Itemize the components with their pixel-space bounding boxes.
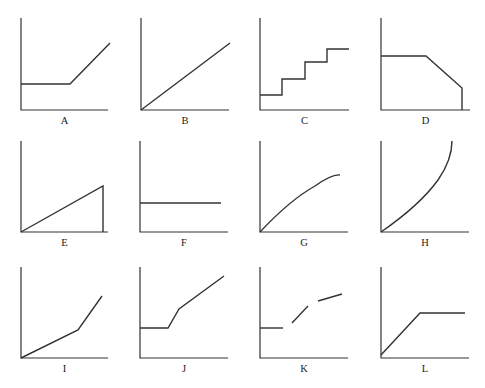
graph-axes xyxy=(260,267,348,358)
graph-label: H xyxy=(421,237,429,248)
graph-curve xyxy=(381,56,462,110)
graph-curve xyxy=(260,49,349,95)
graph-label: I xyxy=(63,363,67,374)
graph-h: H xyxy=(381,141,469,248)
graph-curve xyxy=(21,43,110,84)
graph-axes xyxy=(381,141,469,232)
graph-axes xyxy=(21,18,108,110)
graph-curve xyxy=(141,43,230,110)
graph-k: K xyxy=(260,267,348,374)
graph-b: B xyxy=(141,18,230,126)
graph-c: C xyxy=(260,18,349,126)
graph-axes xyxy=(21,141,108,232)
graph-label: L xyxy=(422,363,428,374)
graph-label: B xyxy=(181,115,188,126)
graph-axes xyxy=(140,267,228,358)
graph-curve xyxy=(381,313,465,355)
graph-curve xyxy=(381,141,452,232)
graph-curve xyxy=(260,175,340,232)
graph-label: K xyxy=(300,363,308,374)
graph-curve xyxy=(140,276,224,328)
graph-label: F xyxy=(181,237,187,248)
graph-label: A xyxy=(61,115,69,126)
graph-f: F xyxy=(140,141,228,248)
graph-label: C xyxy=(301,115,308,126)
graph-e: E xyxy=(21,141,108,248)
graph-axes xyxy=(140,141,228,232)
graph-g: G xyxy=(260,141,348,248)
graph-i: I xyxy=(21,267,108,374)
graph-axes xyxy=(381,18,470,110)
graph-grid: ABCDEFGHIJKL xyxy=(0,0,485,388)
graph-j: J xyxy=(140,267,228,374)
graph-l: L xyxy=(381,267,469,374)
graph-axes xyxy=(21,267,108,358)
graph-label: E xyxy=(61,237,67,248)
graph-label: D xyxy=(422,115,430,126)
graph-curve xyxy=(292,306,308,323)
graph-label: J xyxy=(182,363,186,374)
graph-d: D xyxy=(381,18,470,126)
graph-curve xyxy=(318,294,342,301)
graph-a: A xyxy=(21,18,110,126)
graph-label: G xyxy=(300,237,308,248)
graph-curve xyxy=(21,296,102,358)
graph-axes xyxy=(141,18,229,110)
graph-curve xyxy=(21,186,103,232)
